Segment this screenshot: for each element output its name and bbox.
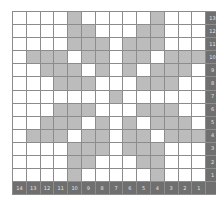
chart-cell-empty	[151, 130, 164, 142]
chart-cell-empty	[96, 25, 109, 37]
chart-cell-empty	[96, 156, 109, 168]
chart-cell-filled	[151, 25, 164, 37]
row-number-label: 6	[206, 104, 216, 116]
chart-cell-empty	[110, 77, 123, 89]
chart-cell-empty	[151, 51, 164, 63]
chart-cell-filled	[137, 38, 150, 50]
chart-cell-empty	[82, 91, 95, 103]
chart-cell-filled	[165, 77, 178, 89]
chart-cell-filled	[54, 104, 67, 116]
chart-cell-empty	[179, 12, 192, 24]
chart-cell-filled	[82, 156, 95, 168]
chart-cell-empty	[13, 77, 26, 89]
chart-cell-empty	[165, 156, 178, 168]
chart-cell-filled	[54, 64, 67, 76]
chart-cell-empty	[68, 130, 81, 142]
chart-cell-filled	[123, 143, 136, 155]
chart-cell-empty	[165, 143, 178, 155]
chart-cell-filled	[82, 38, 95, 50]
chart-cell-empty	[110, 130, 123, 142]
chart-cell-empty	[123, 156, 136, 168]
chart-cell-filled	[54, 51, 67, 63]
chart-cell-empty	[192, 156, 205, 168]
chart-cell-filled	[165, 130, 178, 142]
chart-cell-empty	[27, 156, 40, 168]
chart-cell-filled	[137, 156, 150, 168]
chart-cell-empty	[151, 91, 164, 103]
chart-cell-filled	[82, 77, 95, 89]
chart-cell-empty	[27, 169, 40, 181]
row-number-label: 2	[206, 156, 216, 168]
chart-cell-filled	[151, 156, 164, 168]
chart-cell-filled	[123, 38, 136, 50]
chart-cell-empty	[110, 64, 123, 76]
column-number-label: 8	[96, 182, 109, 194]
chart-cell-filled	[137, 25, 150, 37]
row-number-label: 5	[206, 117, 216, 129]
chart-cell-filled	[96, 117, 109, 129]
chart-cell-filled	[123, 64, 136, 76]
chart-cell-filled	[96, 51, 109, 63]
chart-cell-filled	[68, 143, 81, 155]
chart-cell-filled	[179, 130, 192, 142]
column-number-label: 6	[123, 182, 136, 194]
chart-cell-empty	[41, 77, 54, 89]
chart-cell-empty	[27, 117, 40, 129]
chart-cell-empty	[27, 143, 40, 155]
chart-cell-empty	[27, 12, 40, 24]
chart-cell-empty	[192, 117, 205, 129]
chart-cell-empty	[192, 64, 205, 76]
chart-cell-filled	[68, 12, 81, 24]
chart-cell-empty	[54, 143, 67, 155]
chart-cell-filled	[68, 64, 81, 76]
chart-cell-filled	[137, 104, 150, 116]
chart-cell-filled	[68, 38, 81, 50]
chart-cell-empty	[13, 143, 26, 155]
chart-cell-empty	[192, 143, 205, 155]
chart-cell-filled	[68, 117, 81, 129]
chart-cell-filled	[82, 104, 95, 116]
column-number-label: 10	[68, 182, 81, 194]
chart-cell-filled	[41, 51, 54, 63]
chart-cell-filled	[165, 64, 178, 76]
chart-cell-empty	[192, 91, 205, 103]
chart-cell-empty	[68, 51, 81, 63]
chart-cell-empty	[13, 169, 26, 181]
chart-cell-empty	[165, 91, 178, 103]
chart-cell-filled	[151, 12, 164, 24]
chart-cell-filled	[82, 25, 95, 37]
chart-cell-filled	[137, 130, 150, 142]
chart-cell-filled	[165, 51, 178, 63]
chart-cell-empty	[179, 169, 192, 181]
chart-cell-empty	[110, 156, 123, 168]
row-number-label: 10	[206, 51, 216, 63]
chart-cell-empty	[13, 51, 26, 63]
chart-cell-empty	[54, 169, 67, 181]
chart-cell-empty	[110, 51, 123, 63]
chart-cell-empty	[96, 77, 109, 89]
chart-cell-empty	[82, 117, 95, 129]
column-number-label: 1	[192, 182, 205, 194]
chart-cell-empty	[137, 64, 150, 76]
chart-cell-filled	[82, 51, 95, 63]
chart-cell-empty	[192, 169, 205, 181]
chart-cell-filled	[151, 104, 164, 116]
stitch-chart-grid: 131211109876543211413121110987654321	[12, 11, 216, 195]
chart-cell-filled	[82, 130, 95, 142]
chart-cell-empty	[54, 156, 67, 168]
chart-cell-filled	[27, 51, 40, 63]
chart-cell-empty	[137, 117, 150, 129]
chart-cell-empty	[41, 156, 54, 168]
chart-cell-empty	[13, 25, 26, 37]
chart-cell-empty	[82, 64, 95, 76]
chart-cell-filled	[123, 130, 136, 142]
chart-cell-empty	[123, 25, 136, 37]
chart-cell-empty	[54, 91, 67, 103]
chart-cell-filled	[41, 130, 54, 142]
chart-cell-empty	[110, 169, 123, 181]
chart-cell-filled	[151, 117, 164, 129]
chart-cell-empty	[192, 25, 205, 37]
chart-cell-filled	[68, 156, 81, 168]
chart-cell-empty	[123, 12, 136, 24]
chart-cell-filled	[192, 51, 205, 63]
